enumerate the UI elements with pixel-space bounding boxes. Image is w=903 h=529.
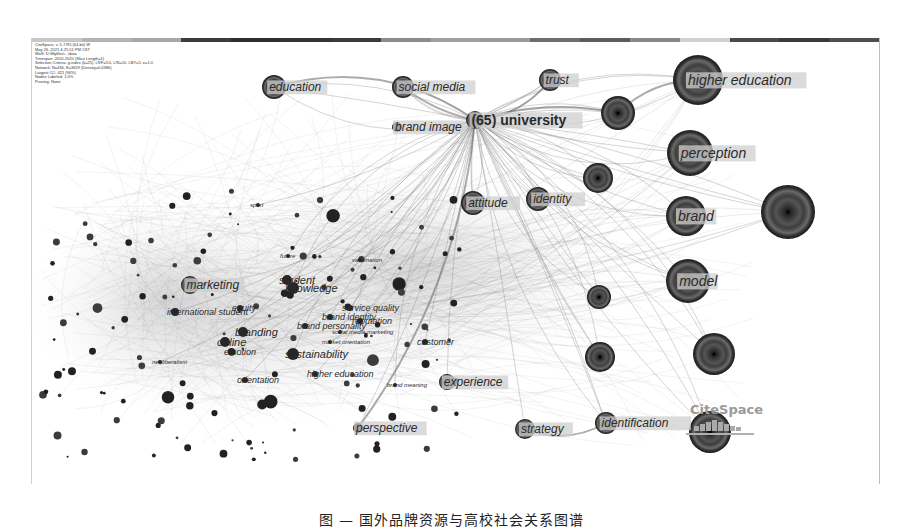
node-label: identity	[533, 192, 572, 206]
node-label: identification	[602, 416, 669, 430]
node-sustainability: sustainability	[285, 348, 349, 360]
node-label: social media	[399, 80, 466, 94]
node-label: customer	[417, 337, 455, 347]
node-equity: equity	[232, 303, 257, 313]
node-label: perspective	[355, 421, 418, 435]
node-label: marketing	[186, 278, 239, 292]
node-label: sport	[250, 202, 264, 208]
node-future: future	[280, 253, 296, 259]
node-label: experience	[444, 375, 503, 389]
node-label: neoliberalism	[152, 359, 187, 365]
logo-base-line	[686, 433, 754, 435]
node-label: market orientation	[322, 339, 371, 345]
node-branding: branding	[235, 326, 279, 338]
node-social-media: social media	[392, 76, 475, 98]
node-higher-education-2: higher education	[307, 369, 374, 379]
node-unlabeled-right-1	[761, 185, 815, 239]
node-strategy: strategy	[515, 419, 573, 439]
node-label: future	[280, 253, 296, 259]
node-perception: perception	[667, 130, 756, 176]
node-unlabeled-right-6	[587, 285, 611, 309]
node-label: sustainability	[285, 348, 349, 360]
node-identification: identification	[595, 412, 691, 434]
node-label: orientation	[237, 375, 279, 385]
node-label: higher education	[307, 369, 374, 379]
node-label: brand meaning	[387, 382, 428, 388]
node-marketing: marketing	[181, 276, 245, 294]
node-higher-education: higher education	[673, 55, 806, 105]
node-label: brand image	[395, 120, 462, 134]
node-orientation: orientation	[237, 375, 279, 385]
node-label: perception	[680, 145, 747, 161]
node-brand: brand	[666, 196, 716, 236]
node-label: model	[679, 273, 718, 289]
node-student: student	[279, 274, 316, 286]
node-label: emotion	[224, 347, 256, 357]
node-brand-image: brand image	[392, 120, 466, 134]
node-label: trust	[546, 73, 570, 87]
node-label: strategy	[521, 422, 565, 436]
node-label: reputation	[352, 316, 392, 326]
node-label: attitude	[468, 196, 508, 210]
node-label: service quality	[342, 303, 400, 313]
node-emotion: emotion	[224, 347, 256, 357]
node-social-media-marketing: social media marketing	[332, 329, 394, 335]
node-market-orientation: market orientation	[322, 339, 371, 345]
node-university: (65) university	[466, 111, 583, 129]
node-model: model	[666, 259, 718, 303]
node-unlabeled-right-7	[585, 342, 615, 372]
node-customer: customer	[417, 337, 455, 347]
node-experience: experience	[439, 374, 508, 390]
node-vaccination: vaccination	[352, 257, 383, 263]
node-brand-meaning: brand meaning	[387, 382, 428, 388]
node-label: (65) university	[471, 112, 566, 128]
node-perspective: perspective	[353, 421, 427, 435]
figure-caption: 图 — 国外品牌资源与高校社会关系图谱	[0, 509, 903, 529]
node-label: student	[279, 274, 316, 286]
node-label: vaccination	[352, 257, 383, 263]
node-label: branding	[235, 326, 279, 338]
node-label: social media marketing	[332, 329, 394, 335]
node-label: brand	[678, 208, 715, 224]
node-label: higher education	[688, 72, 792, 88]
logo-bars-icon	[694, 420, 741, 431]
citespace-logo-text: CiteSpace	[690, 402, 763, 417]
node-unlabeled-right-4	[601, 96, 635, 130]
node-label: education	[269, 80, 321, 94]
node-service-quality: service quality	[342, 303, 400, 313]
node-sport: sport	[250, 202, 264, 208]
node-neoliberalism: neoliberalism	[152, 359, 187, 365]
node-label: equity	[232, 303, 257, 313]
node-reputation: reputation	[352, 316, 392, 326]
citespace-logo: CiteSpace	[686, 402, 756, 442]
node-unlabeled-right-5	[583, 163, 613, 193]
node-unlabeled-right-2	[693, 333, 735, 375]
node-trust: trust	[539, 69, 579, 91]
